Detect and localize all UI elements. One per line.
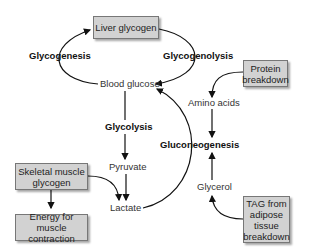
tag-adipose-box: TAG from adipose tissue breakdown [243,196,290,243]
liver-glycogen-label: Liver glycogen [95,22,156,33]
glycolysis-label: Glycolysis [105,121,153,132]
glycogenesis-label: Glycogenesis [29,50,91,61]
protein-breakdown-box: Protein breakdown [243,60,288,87]
blood-glucose-label: Blood glucose [100,78,160,89]
glycogenolysis-label: Glycogenolysis [163,50,233,61]
energy-muscle-box: Energy for muscle contraction [15,214,88,241]
energy-muscle-label: Energy for muscle contraction [16,211,87,244]
liver-glycogen-box: Liver glycogen [93,16,159,39]
arrow-muscle-to-lactate [88,176,119,200]
skeletal-muscle-glycogen-label: Skeletal muscle glycogen [16,166,87,188]
pyruvate-label: Pyruvate [109,161,147,172]
protein-breakdown-label: Protein breakdown [242,63,288,85]
tag-adipose-label: TAG from adipose tissue breakdown [243,198,289,242]
arrow-tag-to-glycerol [212,196,243,219]
skeletal-muscle-glycogen-box: Skeletal muscle glycogen [15,163,88,190]
arrow-protein-to-amino [212,72,243,97]
gluconeogenesis-label: Gluconeogenesis [160,139,239,150]
lactate-label: Lactate [110,202,141,213]
glycerol-label: Glycerol [197,181,232,192]
amino-acids-label: Amino acids [188,97,240,108]
